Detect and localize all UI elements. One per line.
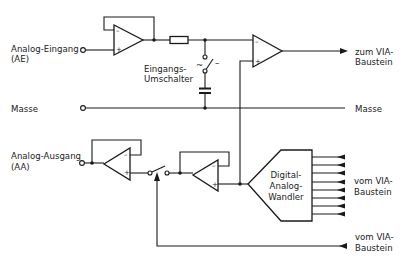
output-switch-contact-right (165, 171, 169, 175)
arrow-left-icon (337, 212, 345, 217)
input-switch-label-line2: Umschalter (144, 74, 194, 84)
from-via-data-line2: Baustein (354, 187, 392, 197)
dac-label-line2: Analog- (270, 181, 303, 191)
input-selector-label: Eingangs- Umschalter (144, 64, 194, 84)
circuit-diagram: Analog-Eingang (AE) – + Eingangs- Umscha… (0, 0, 404, 262)
analog-output-label: Analog-Ausgang (AA) (11, 151, 81, 172)
minus-sign: – (124, 151, 128, 159)
ground-terminal (81, 106, 86, 111)
from-via-data-label: vom VIA- Baustein (354, 176, 393, 197)
ground-label-left: Masse (11, 104, 38, 114)
arrow-up-icon (154, 172, 160, 181)
arrow-right-icon (340, 48, 348, 54)
opamp-comparator: – + (253, 35, 282, 67)
plus-sign: + (212, 181, 218, 189)
opamp-dac-buffer: – + (193, 160, 218, 191)
from-via-ctrl-line1: vom VIA- (355, 232, 394, 242)
dac-data-bus (312, 155, 345, 217)
arrow-left-icon (337, 171, 345, 176)
opamp-input-buffer: – + (114, 25, 143, 55)
arrow-left-icon (337, 163, 345, 168)
opamp-output-buffer: – + (104, 148, 130, 180)
analog-input-label: Analog-Eingang (AE) (11, 44, 79, 64)
arrow-left-icon (337, 188, 345, 193)
minus-sign: – (212, 162, 216, 170)
dac-block: Digital- Analog- Wandler (248, 150, 312, 221)
analog-output-abbrev: (AA) (11, 162, 30, 172)
from-via-ctrl-line2: Baustein (355, 243, 393, 253)
output-switch (152, 166, 165, 172)
wire-dac-feedback-to-comparator (240, 61, 253, 184)
switch-contact-bottom (203, 69, 207, 73)
wire-switch-control (157, 179, 345, 246)
junction-node (238, 182, 242, 186)
to-via-label-line1: zum VIA- (355, 47, 393, 57)
analog-input-abbrev: (AE) (11, 54, 29, 64)
ac-symbol-icon: ~ (196, 60, 203, 70)
resistor (170, 37, 188, 44)
arrow-left-icon (337, 196, 345, 201)
output-switch-contact-left (148, 171, 152, 175)
arrow-left-icon (337, 204, 345, 209)
analog-output-terminal (80, 161, 85, 166)
ground-label-right: Masse (355, 104, 382, 114)
plus-sign: + (116, 46, 122, 54)
analog-input-terminal (81, 48, 86, 53)
to-via-label: zum VIA- Baustein (355, 47, 393, 67)
arrow-left-icon (337, 180, 345, 185)
arrow-left-icon (339, 243, 347, 249)
dac-label-line3: Wandler (268, 192, 304, 202)
input-switch-label-line1: Eingangs- (144, 64, 186, 74)
dac-label-line1: Digital- (271, 170, 302, 180)
to-via-label-line2: Baustein (355, 57, 393, 67)
plus-sign: + (255, 58, 261, 66)
junction-node (152, 38, 156, 42)
switch-contact-top (203, 55, 207, 59)
arrow-left-icon (337, 155, 345, 160)
from-via-control-label: vom VIA- Baustein (355, 232, 394, 253)
analog-input-label-text: Analog-Eingang (11, 44, 79, 54)
analog-output-label-text: Analog-Ausgang (11, 151, 81, 161)
dc-symbol-icon: – (215, 58, 219, 68)
minus-sign: – (116, 27, 120, 35)
plus-sign: + (124, 169, 130, 177)
minus-sign: – (255, 38, 259, 46)
from-via-data-line1: vom VIA- (354, 176, 393, 186)
